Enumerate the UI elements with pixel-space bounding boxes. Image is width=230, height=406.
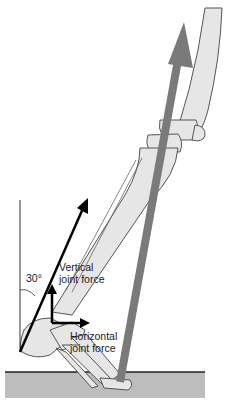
angle-arc [20, 290, 35, 296]
vertical-force-label-line2: joint force [59, 274, 105, 285]
horizontal-force-label-line2: joint force [70, 343, 116, 354]
horizontal-force-label-line1: Horizontal [70, 331, 117, 342]
vertical-force-label-line1: Vertical [59, 262, 93, 273]
knee-joint [147, 120, 205, 152]
angle-label: 30° [26, 273, 42, 284]
